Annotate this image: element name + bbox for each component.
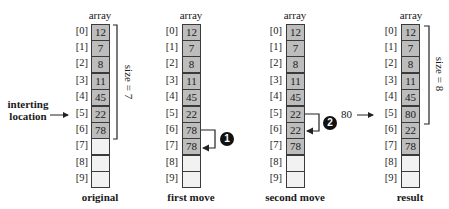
index-label: [9] (158, 172, 178, 183)
array-cell (91, 171, 110, 188)
index-label: [6] (68, 123, 88, 134)
index-label: [0] (158, 25, 178, 36)
index-label: [2] (377, 57, 397, 68)
array-cell: 7 (401, 40, 420, 57)
array-cell: 11 (182, 73, 201, 90)
index-label: [8] (68, 156, 88, 167)
array-cell: 7 (91, 40, 110, 57)
index-label: [2] (68, 57, 88, 68)
index-label: [4] (158, 90, 178, 101)
index-label: [5] (377, 107, 397, 118)
array-title: array (171, 9, 211, 21)
array-cell: 22 (286, 122, 305, 139)
index-label: [9] (377, 172, 397, 183)
array-cell (182, 171, 201, 188)
insert-label-line1: interting (4, 98, 52, 110)
array-cell: 78 (401, 138, 420, 155)
column-caption: original (55, 191, 145, 203)
index-label: [4] (68, 90, 88, 101)
array-cell: 78 (182, 138, 201, 155)
array-cell: 78 (286, 138, 305, 155)
array-cell: 12 (401, 24, 420, 41)
column-caption: first move (146, 191, 236, 203)
array-cell: 12 (182, 24, 201, 41)
array-cell: 8 (401, 56, 420, 73)
index-label: [7] (68, 139, 88, 150)
array-cell: 8 (286, 56, 305, 73)
index-label: [8] (377, 156, 397, 167)
array-cell: 78 (91, 122, 110, 139)
step-badge-2: 2 (323, 116, 337, 130)
array-cell: 11 (401, 73, 420, 90)
index-label: [9] (68, 172, 88, 183)
insert-value-label: 80 (341, 108, 352, 120)
index-label: [6] (262, 123, 282, 134)
array-cell: 78 (182, 122, 201, 139)
array-cell: 8 (91, 56, 110, 73)
array-cell (91, 138, 110, 155)
index-label: [3] (377, 74, 397, 85)
index-label: [1] (377, 41, 397, 52)
array-cell: 22 (401, 122, 420, 139)
index-label: [9] (262, 172, 282, 183)
array-cell (182, 155, 201, 172)
index-label: [7] (377, 139, 397, 150)
array-cell (286, 155, 305, 172)
array-cell (401, 171, 420, 188)
array-cell: 45 (182, 89, 201, 106)
index-label: [2] (262, 57, 282, 68)
index-label: [5] (262, 107, 282, 118)
index-label: [1] (262, 41, 282, 52)
index-label: [8] (262, 156, 282, 167)
array-cell (401, 155, 420, 172)
array-cell: 7 (286, 40, 305, 57)
index-label: [6] (377, 123, 397, 134)
index-label: [5] (68, 107, 88, 118)
index-label: [2] (158, 57, 178, 68)
index-label: [1] (158, 41, 178, 52)
array-cell: 22 (286, 106, 305, 123)
array-cell: 12 (286, 24, 305, 41)
array-cell (286, 171, 305, 188)
index-label: [0] (68, 25, 88, 36)
array-title: array (275, 9, 315, 21)
index-label: [1] (68, 41, 88, 52)
column-caption: second move (250, 191, 340, 203)
array-cell: 12 (91, 24, 110, 41)
index-label: [8] (158, 156, 178, 167)
array-cell: 7 (182, 40, 201, 57)
array-cell: 45 (91, 89, 110, 106)
column-caption: result (365, 191, 449, 203)
size-label: size = 8 (434, 49, 446, 99)
inserting-location-label: interting location (4, 98, 52, 122)
index-label: [4] (377, 90, 397, 101)
index-label: [3] (262, 74, 282, 85)
index-label: [0] (377, 25, 397, 36)
array-cell (91, 155, 110, 172)
array-cell: 80 (401, 106, 420, 123)
array-cell: 22 (182, 106, 201, 123)
array-cell: 22 (91, 106, 110, 123)
index-label: [5] (158, 107, 178, 118)
array-cell: 11 (286, 73, 305, 90)
array-cell: 11 (91, 73, 110, 90)
step-badge-1: 1 (220, 132, 234, 146)
array-title: array (391, 9, 431, 21)
size-label: size = 7 (123, 57, 135, 107)
array-cell: 45 (286, 89, 305, 106)
index-label: [7] (158, 139, 178, 150)
insert-label-line2: location (4, 110, 52, 122)
index-label: [3] (68, 74, 88, 85)
index-label: [7] (262, 139, 282, 150)
index-label: [4] (262, 90, 282, 101)
array-title: array (80, 9, 120, 21)
index-label: [3] (158, 74, 178, 85)
index-label: [0] (262, 25, 282, 36)
index-label: [6] (158, 123, 178, 134)
array-cell: 45 (401, 89, 420, 106)
array-cell: 8 (182, 56, 201, 73)
